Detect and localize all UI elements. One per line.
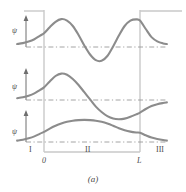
figure-caption: (a) [0,174,186,184]
region-label-I: I [29,145,32,154]
x-tick-0: 0 [42,156,46,165]
region-label-III: III [156,145,164,154]
region-label-II: II [85,145,90,154]
curve-psi-n2 [17,74,167,120]
curve-psi-n3 [17,19,167,61]
x-tick-L: L [137,156,141,165]
plot-canvas [0,0,186,192]
wavefunction-figure: ψ ψ ψ I II III 0 L (a) [0,0,186,192]
panel-top-axis-arrow [24,15,29,21]
panel-bottom-axis-arrow [24,110,29,116]
panel-middle-axis-label: ψ [12,82,17,91]
panel-top-axis-label: ψ [12,26,17,35]
panel-bottom-axis-label: ψ [12,127,17,136]
panel-middle-axis-arrow [24,68,29,74]
curve-psi-n1 [17,120,167,141]
